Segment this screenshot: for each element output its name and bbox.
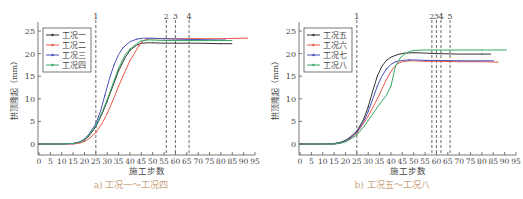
- legend-label-3: 工况七: [323, 51, 347, 60]
- y-tick-label: 15: [25, 72, 35, 81]
- series-point: [388, 75, 389, 76]
- chart-panel-a: 1234051015202505101520253035404550556065…: [0, 0, 262, 199]
- x-tick-label: 40: [125, 157, 135, 166]
- series-point: [356, 134, 357, 135]
- y-tick-label: 25: [286, 27, 296, 36]
- legend-label-2: 工况二: [62, 41, 86, 50]
- series-point: [129, 60, 130, 61]
- x-tick-label: 20: [341, 157, 351, 166]
- series-point: [334, 143, 335, 144]
- marker-label-1: 1: [93, 12, 98, 21]
- series-point: [368, 115, 369, 116]
- x-tick-label: 70: [193, 157, 203, 166]
- series-point: [163, 38, 164, 39]
- legend-label-4: 工况八: [323, 61, 347, 70]
- series-point: [390, 86, 391, 87]
- caption-b: b) 工况五～工况八: [261, 178, 523, 191]
- x-tick-label: 10: [318, 157, 328, 166]
- line-chart-b: 1234505101520250510152025303540455055606…: [261, 0, 523, 178]
- x-tick-label: 45: [398, 157, 408, 166]
- series-point: [220, 43, 221, 44]
- x-tick-label: 25: [352, 157, 362, 166]
- series-point: [493, 60, 494, 61]
- x-axis-label: 施工步数: [129, 166, 165, 176]
- series-point: [345, 141, 346, 142]
- legend-marker: [312, 34, 314, 36]
- x-tick-label: 65: [443, 157, 453, 166]
- series-point: [459, 60, 460, 61]
- y-tick-label: 25: [25, 27, 35, 36]
- series-point: [395, 61, 396, 62]
- x-tick-label: 20: [80, 157, 90, 166]
- series-line-3: [300, 60, 493, 144]
- series-point: [497, 62, 498, 63]
- x-tick-label: 60: [432, 157, 442, 166]
- x-tick-label: 55: [420, 157, 430, 166]
- legend-marker: [51, 44, 53, 46]
- x-tick-label: 15: [68, 157, 78, 166]
- series-point: [118, 86, 119, 87]
- x-tick-label: 65: [182, 157, 192, 166]
- x-tick-label: 55: [159, 157, 169, 166]
- x-tick-label: 25: [91, 157, 101, 166]
- series-point: [368, 120, 369, 121]
- series-point: [123, 47, 124, 48]
- marker-label-2: 2: [164, 12, 169, 21]
- x-tick-label: 85: [227, 157, 237, 166]
- x-tick-label: 5: [309, 157, 314, 166]
- series-point: [136, 39, 137, 40]
- x-tick-label: 70: [454, 157, 464, 166]
- legend-marker: [51, 54, 53, 56]
- series-point: [243, 38, 244, 39]
- series-point: [395, 66, 396, 67]
- y-axis-label: 拱顶隆起（mm）: [9, 57, 19, 120]
- x-tick-label: 90: [239, 157, 249, 166]
- series-point: [436, 53, 437, 54]
- x-tick-label: 50: [409, 157, 419, 166]
- legend-marker: [312, 54, 314, 56]
- line-chart-a: 1234051015202505101520253035404550556065…: [0, 0, 262, 178]
- series-point: [84, 139, 85, 140]
- series-point: [386, 68, 387, 69]
- y-tick-label: 5: [30, 117, 35, 126]
- series-point: [424, 60, 425, 61]
- series-point: [113, 64, 114, 65]
- series-point: [107, 99, 108, 100]
- y-tick-label: 10: [25, 95, 35, 104]
- series-point: [397, 54, 398, 55]
- series-point: [409, 59, 410, 60]
- marker-label-4: 4: [187, 12, 192, 21]
- x-axis-label: 施工步数: [390, 166, 426, 176]
- series-point: [107, 113, 108, 114]
- series-point: [152, 39, 153, 40]
- x-tick-label: 80: [477, 157, 487, 166]
- x-tick-label: 35: [375, 157, 385, 166]
- series-point: [379, 104, 380, 105]
- marker-label-3: 3: [173, 12, 178, 21]
- series-point: [413, 50, 414, 51]
- marker-label-5: 5: [448, 12, 453, 21]
- x-tick-label: 95: [250, 157, 260, 166]
- legend-label-3: 工况三: [62, 51, 86, 60]
- y-tick-label: 15: [286, 72, 296, 81]
- series-point: [95, 125, 96, 126]
- y-tick-label: 0: [291, 140, 296, 149]
- y-axis-label: 拱顶隆起（mm）: [270, 57, 280, 120]
- legend-label-4: 工况四: [62, 61, 86, 70]
- series-point: [73, 143, 74, 144]
- x-tick-label: 35: [114, 157, 124, 166]
- legend-marker: [312, 44, 314, 46]
- series-point: [220, 40, 221, 41]
- series-point: [481, 53, 482, 54]
- y-tick-label: 10: [286, 95, 296, 104]
- x-tick-label: 75: [466, 157, 476, 166]
- chart-panel-b: 1234505101520250510152025303540455055606…: [261, 0, 523, 199]
- legend-marker: [312, 64, 314, 66]
- series-point: [129, 48, 130, 49]
- caption-a: a) 工况一～工况四: [0, 178, 262, 191]
- y-tick-label: 0: [30, 140, 35, 149]
- series-point: [356, 132, 357, 133]
- marker-label-4: 4: [438, 12, 443, 21]
- series-point: [436, 49, 437, 50]
- x-tick-label: 85: [488, 157, 498, 166]
